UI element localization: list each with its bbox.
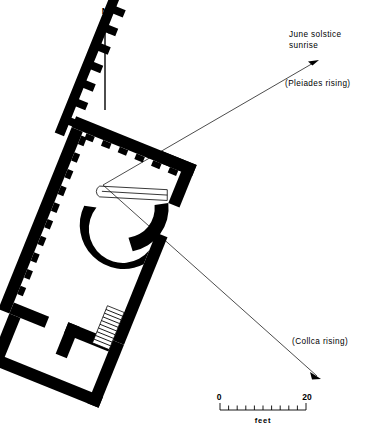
scale-min-label: 0 (217, 392, 222, 402)
scale-unit-label: feet (255, 416, 272, 425)
site-plan-figure: N (0, 0, 371, 432)
scale-max-label: 20 (302, 392, 312, 402)
pleiades-rising-label: (Pleiades rising) (285, 79, 351, 88)
june-solstice-label-line2: sunrise (289, 41, 318, 50)
collca-rising-label: (Collca rising) (292, 337, 348, 346)
figure-background (0, 0, 371, 432)
june-solstice-label-line1: June solstice (289, 30, 342, 39)
